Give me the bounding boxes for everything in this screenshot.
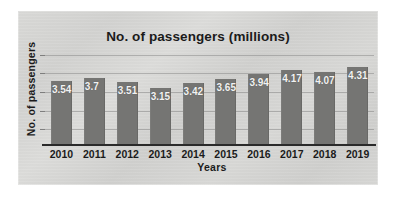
bar-slot: 4.31 [341, 55, 374, 145]
bar[interactable]: 3.65 [215, 79, 236, 145]
y-axis-label: No. of passengers [25, 35, 37, 143]
x-axis-tick-label: 2017 [275, 148, 308, 160]
bar-value-label: 3.51 [118, 85, 137, 96]
x-axis-tick-label: 2019 [341, 148, 374, 160]
x-axis-line [42, 144, 376, 146]
bar[interactable]: 3.15 [150, 88, 171, 145]
bar-value-label: 4.31 [348, 70, 367, 81]
bar[interactable]: 3.51 [117, 82, 138, 145]
bar-slot: 3.42 [177, 55, 210, 145]
bar[interactable]: 3.42 [183, 83, 204, 145]
bar-value-label: 3.94 [249, 77, 268, 88]
bar-slot: 3.65 [210, 55, 243, 145]
x-axis-tick-label: 2015 [210, 148, 243, 160]
bar-value-label: 3.65 [216, 82, 235, 93]
x-axis-tick-label: 2011 [78, 148, 111, 160]
bar[interactable]: 4.07 [314, 72, 335, 145]
bar[interactable]: 3.7 [84, 78, 105, 145]
bar[interactable]: 3.94 [248, 74, 269, 145]
bar-slot: 4.07 [308, 55, 341, 145]
bar-slot: 3.94 [242, 55, 275, 145]
x-axis-tick-label: 2014 [177, 148, 210, 160]
bar-value-label: 3.42 [184, 86, 203, 97]
bar-value-label: 4.07 [315, 75, 334, 86]
bar-series: 3.543.73.513.153.423.653.944.174.074.31 [45, 55, 374, 145]
x-axis-tick-label: 2010 [45, 148, 78, 160]
x-axis-label: Years [46, 161, 378, 173]
bar-value-label: 3.54 [52, 84, 71, 95]
bar[interactable]: 3.54 [51, 81, 72, 145]
bar-slot: 4.17 [275, 55, 308, 145]
bar-slot: 3.51 [111, 55, 144, 145]
x-axis-tick-labels: 2010201120122013201420152016201720182019 [45, 148, 374, 160]
bar-value-label: 3.15 [151, 91, 170, 102]
x-axis-tick-label: 2012 [111, 148, 144, 160]
x-axis-tick-label: 2013 [144, 148, 177, 160]
bar[interactable]: 4.31 [347, 67, 368, 145]
x-axis-tick-label: 2016 [242, 148, 275, 160]
bar-slot: 3.15 [144, 55, 177, 145]
bar[interactable]: 4.17 [281, 70, 302, 145]
bar-value-label: 3.7 [85, 81, 99, 92]
x-axis-tick-label: 2018 [308, 148, 341, 160]
chart-title: No. of passengers (millions) [18, 29, 378, 44]
bar-slot: 3.54 [45, 55, 78, 145]
bar-slot: 3.7 [78, 55, 111, 145]
bar-value-label: 4.17 [282, 73, 301, 84]
chart-panel: No. of passengers (millions) No. of pass… [18, 11, 378, 185]
